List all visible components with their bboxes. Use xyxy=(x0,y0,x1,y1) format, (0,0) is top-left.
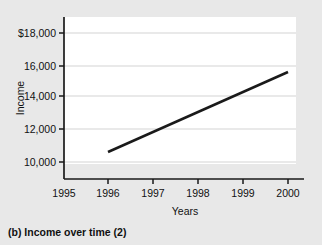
x-axis-tick-label-1996: 1996 xyxy=(96,187,120,199)
plot-area-background xyxy=(64,17,296,164)
y-axis-tick-label-14000: 14,000 xyxy=(24,90,56,102)
y-axis-tick-label-10000: 10,000 xyxy=(24,156,56,168)
y-axis-tick-label-16000: 16,000 xyxy=(24,60,56,72)
x-axis-tick-label-1997: 1997 xyxy=(141,187,165,199)
y-axis-tick-label-18000: $18,000 xyxy=(18,27,56,39)
y-axis-tick-label-12000: 12,000 xyxy=(24,123,56,135)
figure-caption: (b) Income over time (2) xyxy=(8,226,126,238)
x-axis-tick-label-1999: 1999 xyxy=(231,187,255,199)
figure-panel: $18,000 16,000 14,000 12,000 10,000 1995… xyxy=(0,0,322,245)
income-over-time-line-chart: $18,000 16,000 14,000 12,000 10,000 1995… xyxy=(0,0,322,245)
x-axis-tick-label-1995: 1995 xyxy=(52,187,76,199)
x-axis-tick-label-2000: 2000 xyxy=(276,187,300,199)
x-axis-tick-label-1998: 1998 xyxy=(186,187,210,199)
x-axis-title: Years xyxy=(172,205,198,217)
y-axis-title: Income xyxy=(14,81,26,116)
